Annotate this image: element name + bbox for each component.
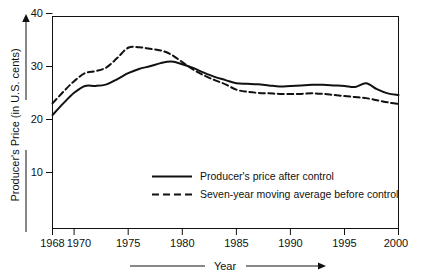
series-line-seven-year-average <box>53 47 399 104</box>
x-tick-label-1970: 1970 <box>67 237 91 249</box>
x-axis-title: Year <box>214 260 237 272</box>
series-line-producers-price <box>53 62 399 116</box>
chart-legend: Producer's price after control Seven-yea… <box>152 170 398 200</box>
x-tick-label-1968: 1968 <box>40 237 64 249</box>
x-tick-label-1975: 1975 <box>116 237 140 249</box>
x-tick-label-2000: 2000 <box>384 237 408 249</box>
y-tick-label-10: 10 <box>31 166 43 178</box>
legend-label-producers-price: Producer's price after control <box>200 170 334 182</box>
y-axis-ticks <box>46 14 53 173</box>
y-tick-label-30: 30 <box>31 60 43 72</box>
x-tick-label-1990: 1990 <box>278 237 302 249</box>
x-tick-label-1995: 1995 <box>332 237 356 249</box>
x-tick-label-1980: 1980 <box>170 237 194 249</box>
legend-label-seven-year-average: Seven-year moving average before control <box>200 188 398 200</box>
x-axis-ticks <box>53 229 399 236</box>
y-axis-arrow <box>22 14 30 232</box>
y-tick-label-20: 20 <box>31 113 43 125</box>
data-series-layer <box>53 47 399 115</box>
y-axis-title: Producer's Price (in U.S. cents) <box>9 48 21 201</box>
line-chart: 40 30 20 10 Producer's Price (in U.S. ce… <box>0 0 421 279</box>
chart-figure: 40 30 20 10 Producer's Price (in U.S. ce… <box>0 0 421 279</box>
y-tick-label-40: 40 <box>31 7 43 19</box>
x-tick-label-1985: 1985 <box>224 237 248 249</box>
